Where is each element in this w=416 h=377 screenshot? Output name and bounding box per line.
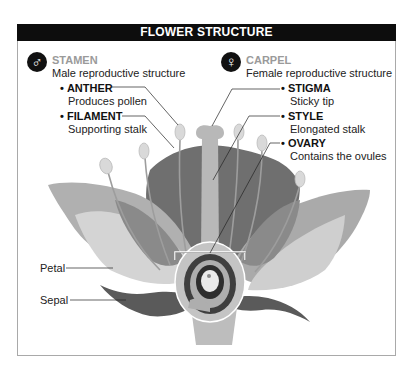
stigma-term: STIGMA [288,82,331,94]
anther-label: • ANTHER [60,82,113,95]
stigma-leader [212,89,280,126]
ovary-term: OVARY [288,137,326,149]
female-symbol-icon: ♀ [221,52,241,72]
anther-term: ANTHER [67,82,113,94]
male-symbol-icon: ♂ [27,52,47,72]
style [201,135,219,255]
filament-label: • FILAMENT [60,110,123,123]
stigma [196,125,224,140]
filament-term: FILAMENT [67,110,123,122]
carpel-heading: CARPEL [246,54,291,67]
style-label: • STYLE [281,110,323,123]
style-term: STYLE [288,110,323,122]
style-description: Elongated stalk [290,123,365,136]
stamen-subheading: Male reproductive structure [52,67,185,80]
stamen-heading: STAMEN [52,54,98,67]
anther-bullet: • [60,82,64,94]
stigma-label: • STIGMA [281,82,331,95]
filament-bullet: • [60,110,64,122]
sepal-label: Sepal [40,294,68,307]
ovule [201,270,219,292]
petal-label: Petal [40,262,65,275]
ovary-label: • OVARY [281,137,326,150]
carpel-subheading: Female reproductive structure [246,67,392,80]
stigma-bullet: • [281,82,285,94]
stigma-description: Sticky tip [290,95,334,108]
ovary-description: Contains the ovules [290,150,387,163]
filament-description: Supporting stalk [68,123,147,136]
anther-description: Produces pollen [68,95,147,108]
ovary-bullet: • [281,137,285,149]
style-bullet: • [281,110,285,122]
